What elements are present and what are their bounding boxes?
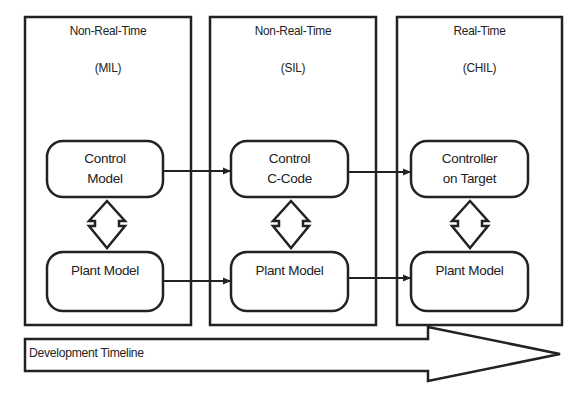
column-abbrev-chil: (CHIL) (407, 60, 552, 75)
timeline-label: Development Timeline (29, 345, 144, 360)
controller-label-line1: Control (47, 149, 163, 169)
plant-label-chil: Plant Model (411, 261, 528, 281)
bidirectional-arrow-sil (273, 201, 309, 248)
column-abbrev-mil: (MIL) (35, 60, 181, 75)
controller-label-mil: Control Model (47, 149, 163, 189)
column-mode-chil: Real-Time (407, 23, 552, 38)
controller-label-line2: on Target (411, 169, 528, 189)
plant-label-mil: Plant Model (47, 261, 163, 281)
column-mode-mil: Non-Real-Time (35, 23, 181, 38)
controller-label-line2: C-Code (231, 169, 348, 189)
controller-label-sil: Control C-Code (231, 149, 348, 189)
plant-label-sil: Plant Model (231, 261, 348, 281)
bidirectional-arrow-chil (452, 201, 488, 248)
controller-label-line1: Controller (411, 149, 528, 169)
controller-label-line1: Control (231, 149, 348, 169)
column-mode-sil: Non-Real-Time (220, 23, 366, 38)
column-abbrev-sil: (SIL) (220, 60, 366, 75)
controller-label-chil: Controller on Target (411, 149, 528, 189)
bidirectional-arrow-mil (89, 201, 125, 248)
controller-label-line2: Model (47, 169, 163, 189)
